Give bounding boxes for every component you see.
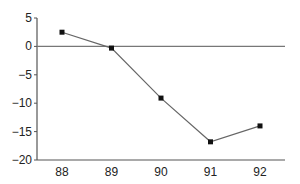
y-tick-label: −20: [12, 153, 33, 167]
y-tick-label: −5: [18, 68, 32, 82]
data-point-marker: [258, 123, 263, 128]
chart-canvas: 50−5−10−15−20 8889909192: [0, 0, 300, 184]
y-tick-label: −15: [12, 125, 33, 139]
x-tick-label: 92: [253, 165, 267, 179]
data-point-marker: [60, 30, 65, 35]
x-axis: 8889909192: [37, 160, 285, 179]
data-point-marker: [109, 46, 114, 51]
y-tick-label: 5: [25, 11, 32, 25]
data-point-marker: [159, 96, 164, 101]
x-tick-label: 90: [154, 165, 168, 179]
series-line: [62, 32, 260, 142]
line-chart: 50−5−10−15−20 8889909192: [0, 0, 300, 184]
y-axis: 50−5−10−15−20: [12, 11, 37, 167]
y-tick-label: −10: [12, 96, 33, 110]
x-tick-label: 88: [55, 165, 69, 179]
y-tick-label: 0: [25, 39, 32, 53]
x-tick-label: 89: [105, 165, 119, 179]
x-tick-label: 91: [204, 165, 218, 179]
data-point-marker: [208, 139, 213, 144]
